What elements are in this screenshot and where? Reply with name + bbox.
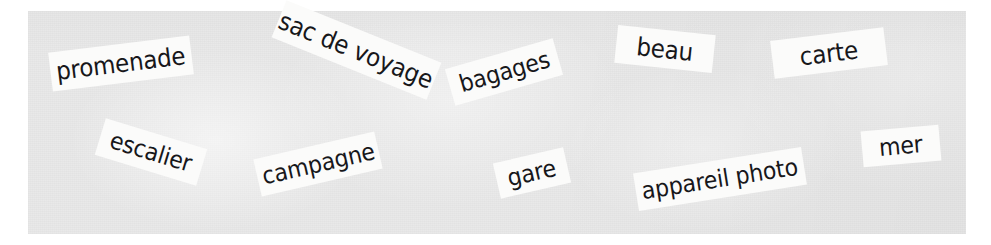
word-card[interactable]: mer — [861, 125, 942, 168]
word-card-label: mer — [878, 132, 924, 160]
word-card-scene: promenadesac de voyagebagagesbeaucartees… — [0, 0, 991, 245]
word-card-label: gare — [505, 156, 558, 190]
word-card-label: beau — [636, 34, 695, 65]
word-card-label: carte — [798, 37, 859, 69]
